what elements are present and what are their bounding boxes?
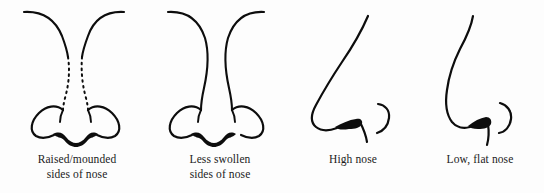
caption-line-2: sides of nose bbox=[2, 167, 152, 182]
panel-less-swollen-sides: Less swollen sides of nose bbox=[150, 0, 290, 193]
nose-frontal-less-swollen-illustration bbox=[150, 0, 290, 150]
panel-raised-mounded-sides: Raised/mounded sides of nose bbox=[2, 0, 152, 193]
caption-low-flat-nose: Low, flat nose bbox=[416, 152, 544, 167]
caption-line-1: Low, flat nose bbox=[416, 152, 544, 167]
nose-shapes-figure: Raised/mounded sides of nose Less swolle… bbox=[0, 0, 544, 193]
caption-high-nose: High nose bbox=[290, 152, 416, 167]
caption-less-swollen-sides: Less swollen sides of nose bbox=[150, 152, 290, 181]
panel-high-nose: High nose bbox=[290, 0, 416, 193]
panel-low-flat-nose: Low, flat nose bbox=[416, 0, 544, 193]
caption-raised-mounded-sides: Raised/mounded sides of nose bbox=[2, 152, 152, 181]
nose-profile-high-illustration bbox=[290, 0, 416, 150]
nose-profile-low-flat-illustration bbox=[416, 0, 544, 150]
nose-frontal-raised-mounded-illustration bbox=[2, 0, 152, 150]
caption-line-1: Less swollen bbox=[150, 152, 290, 167]
caption-line-1: High nose bbox=[290, 152, 416, 167]
caption-line-1: Raised/mounded bbox=[2, 152, 152, 167]
caption-line-2: sides of nose bbox=[150, 167, 290, 182]
